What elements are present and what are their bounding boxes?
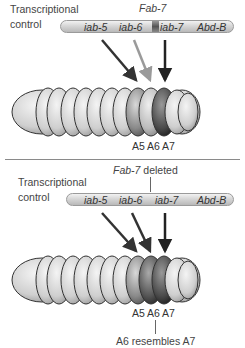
segment-label-a6: A6: [147, 140, 160, 152]
segment-label-a5: A5: [132, 140, 145, 152]
arrows-1: [0, 0, 245, 175]
larva-2: [12, 256, 200, 304]
arrows-2: [0, 175, 245, 348]
a6-pointer-line: [155, 320, 156, 334]
segment-label-a7: A7: [162, 307, 175, 319]
segment-label-a6: A6: [147, 307, 160, 319]
segment-label-a5: A5: [132, 307, 145, 319]
a6-resembles-a7-caption: A6 resembles A7: [116, 335, 195, 347]
segment-label-a7: A7: [162, 140, 175, 152]
larva-1: [12, 88, 200, 136]
panel-divider: [5, 159, 240, 160]
